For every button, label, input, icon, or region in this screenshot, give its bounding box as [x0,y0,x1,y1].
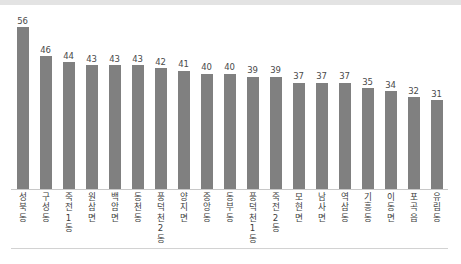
x-axis-tick-label: 풍덕천1동 [241,192,264,248]
x-axis-tick-label-text: 포곡읍 [408,192,419,223]
x-axis-tick-label-text: 양지면 [178,192,189,223]
x-axis-tick-label-text: 역삼동 [339,192,350,223]
x-axis-tick-label: 역삼동 [333,192,356,248]
bar-group: 56 [11,10,34,190]
x-axis-tick-label-text: 동천동 [132,192,143,223]
bar[interactable] [385,91,397,190]
bar-group: 46 [34,10,57,190]
bar-group: 43 [80,10,103,190]
bar[interactable] [201,74,213,190]
x-axis-tick-label: 동부동 [218,192,241,248]
bar[interactable] [247,77,259,190]
x-axis-tick-label-text: 풍덕천1동 [247,192,258,244]
x-axis-tick-label: 죽전2동 [264,192,287,248]
bar[interactable] [132,65,144,190]
bar[interactable] [224,74,236,190]
x-axis-tick-label-text: 풍덕천2동 [155,192,166,244]
x-axis-tick-label: 남사면 [310,192,333,248]
bar-group: 41 [172,10,195,190]
bar[interactable] [17,27,29,190]
x-axis-tick-label-text: 성북동 [17,192,28,223]
x-axis-tick-label-text: 원삼면 [86,192,97,223]
x-axis-tick-label: 죽전1동 [57,192,80,248]
bar-group: 37 [310,10,333,190]
bar[interactable] [63,62,75,190]
bar[interactable] [362,88,374,190]
x-axis-tick-label: 구성동 [34,192,57,248]
bar-group: 43 [103,10,126,190]
x-axis-tick-label: 포곡읍 [402,192,425,248]
bar-group: 31 [425,10,448,190]
bar[interactable] [40,56,52,190]
bar-group: 44 [57,10,80,190]
bar[interactable] [270,77,282,190]
x-axis-tick-label-text: 죽전2동 [270,192,281,234]
x-axis-tick-label-text: 백암면 [109,192,120,223]
bar-group: 32 [402,10,425,190]
x-axis-tick-label-text: 남사면 [316,192,327,223]
x-axis-tick-label: 이동면 [379,192,402,248]
x-axis-tick-label-text: 동부동 [224,192,235,223]
bar-group: 37 [287,10,310,190]
bar[interactable] [431,100,443,190]
bar-value-label: 56 [10,16,36,26]
x-axis-tick-label: 중앙동 [195,192,218,248]
bar[interactable] [86,65,98,190]
bottom-rule-divider [11,248,448,249]
x-axis-tick-label: 원삼면 [80,192,103,248]
bar[interactable] [293,83,305,190]
bar-chart-plot-area: 56464443434342414040393937373735343231 [11,10,448,190]
bar[interactable] [339,83,351,190]
x-axis-tick-label: 유림동 [425,192,448,248]
bar-group: 43 [126,10,149,190]
x-axis-tick-label: 양지면 [172,192,195,248]
x-axis-tick-label: 풍덕천2동 [149,192,172,248]
x-axis-tick-label: 기흥동 [356,192,379,248]
bar-value-label: 31 [424,89,450,99]
bar-group: 40 [218,10,241,190]
bar[interactable] [109,65,121,190]
x-axis-tick-label-text: 모현면 [293,192,304,223]
bar[interactable] [155,68,167,190]
x-axis-tick-label: 모현면 [287,192,310,248]
bar[interactable] [316,83,328,190]
bar-group: 37 [333,10,356,190]
x-axis-tick-label-text: 이동면 [385,192,396,223]
x-axis-tick-label-text: 구성동 [40,192,51,223]
x-axis-tick-label: 백암면 [103,192,126,248]
x-axis-tick-label-text: 기흥동 [362,192,373,223]
top-band-divider [0,0,461,5]
x-axis-tick-label: 동천동 [126,192,149,248]
bar-group: 35 [356,10,379,190]
chart-page: 56464443434342414040393937373735343231 성… [0,0,461,264]
bar-group: 39 [241,10,264,190]
x-axis-tick-label: 성북동 [11,192,34,248]
x-axis-label-row: 성북동구성동죽전1동원삼면백암면동천동풍덕천2동양지면중앙동동부동풍덕천1동죽전… [11,192,448,248]
x-axis-tick-label-text: 중앙동 [201,192,212,223]
bar-group: 39 [264,10,287,190]
bar-group: 42 [149,10,172,190]
bar[interactable] [408,97,420,190]
x-axis-tick-label-text: 유림동 [431,192,442,223]
x-axis-baseline [11,189,448,190]
x-axis-tick-label-text: 죽전1동 [63,192,74,234]
bar[interactable] [178,71,190,190]
bar-group: 34 [379,10,402,190]
bar-group: 40 [195,10,218,190]
